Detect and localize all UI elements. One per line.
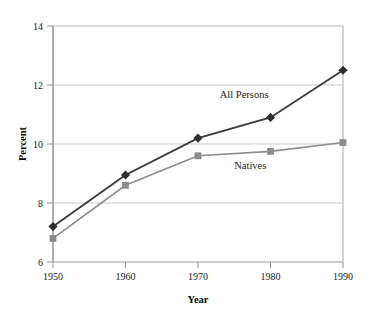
x-tick-labels: 1950 1960 1970 1980 1990	[43, 271, 353, 282]
y-tick-label-10: 10	[33, 139, 43, 150]
chart-figure: 14 12 10 8 6 1950 1960 1970 1980 1990 Pe…	[0, 0, 366, 314]
data-point-natives-1980	[267, 148, 274, 155]
x-tick-label-1970: 1970	[188, 271, 208, 282]
x-tick-label-1960: 1960	[116, 271, 136, 282]
series-annotation-natives: Natives	[234, 160, 266, 171]
x-tick-label-1950: 1950	[43, 271, 63, 282]
x-axis-title: Year	[188, 294, 209, 305]
data-point-natives-1960	[122, 182, 129, 189]
x-tick-marks	[53, 262, 343, 268]
data-point-natives-1950	[50, 235, 57, 242]
x-tick-label-1980: 1980	[261, 271, 281, 282]
y-tick-label-8: 8	[38, 198, 43, 209]
y-tick-label-6: 6	[38, 257, 43, 268]
data-point-natives-1970	[195, 152, 202, 159]
y-tick-label-12: 12	[33, 80, 43, 91]
y-tick-label-14: 14	[33, 21, 43, 32]
x-tick-label-1990: 1990	[333, 271, 353, 282]
y-axis-title: Percent	[17, 126, 28, 161]
line-chart-svg: 14 12 10 8 6 1950 1960 1970 1980 1990 Pe…	[0, 0, 366, 314]
data-point-natives-1990	[340, 139, 347, 146]
series-annotation-all-persons: All Persons	[220, 89, 269, 100]
y-tick-labels: 14 12 10 8 6	[33, 21, 43, 268]
